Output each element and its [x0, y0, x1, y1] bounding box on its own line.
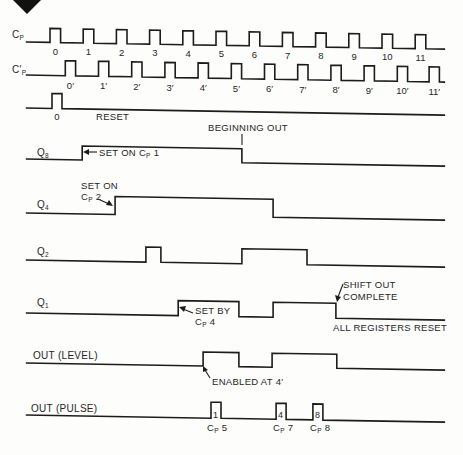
pulse-label-cp: 0: [53, 46, 58, 57]
set-on-cp2-annotation-line1: SET ON: [81, 180, 118, 191]
annotation-text: 4: [207, 316, 216, 327]
pulse-label-cp: 1: [86, 46, 91, 57]
label-main: Q: [37, 246, 45, 257]
pulse-label-cp-prime: 3′: [166, 82, 173, 93]
pulse-label-cp: 11: [416, 52, 426, 63]
out-pulse-number: 8: [315, 410, 320, 421]
label-main: Q: [37, 147, 45, 158]
pulse-label-cp: 2: [119, 47, 124, 58]
pulse-label-cp: 10: [382, 51, 393, 62]
signal-label-cp: CP: [12, 29, 24, 40]
pulse-label-cp-prime: 4′: [200, 82, 207, 93]
shift-out-annotation-line1: SHIFT OUT: [343, 279, 396, 290]
signal-label-q2: Q2: [37, 246, 49, 257]
set-on-cp1-arrowhead: [83, 149, 89, 155]
pulse-label-cp-prime: 0′: [67, 80, 74, 91]
shift-out-arrowhead: [335, 295, 341, 302]
label-sub: 2: [45, 251, 49, 258]
pulse-label-cp-prime: 11′: [428, 86, 440, 97]
label-sub: P: [22, 69, 27, 76]
diamond-icon: [13, 0, 41, 14]
pulse-label-cp-prime: 9′: [366, 85, 373, 96]
label-main: OUT (LEVEL): [33, 350, 98, 361]
pulse-label-cp: 4: [185, 48, 190, 59]
caption-text: 7: [285, 422, 294, 433]
label-sub: 4: [45, 204, 49, 211]
beginning-out-annotation: BEGINNING OUT: [208, 122, 288, 133]
label-main: OUT (PULSE): [31, 403, 97, 414]
out-pulse-caption: CP 5: [207, 422, 227, 433]
set-by-cp4-annotation-line1: SET BY: [195, 305, 230, 316]
pulse-label-cp-prime: 2′: [133, 81, 140, 92]
label-main: Q: [37, 199, 45, 210]
out-pulse-caption: CP 8: [310, 422, 330, 433]
pulse-label-cp: 5: [219, 48, 224, 59]
set-by-cp4-arrowhead: [179, 306, 186, 312]
signal-label-cp-prime: C′P: [12, 64, 26, 75]
out-pulse-number: 4: [278, 410, 283, 421]
pulse-label-cp-prime: 5′: [233, 83, 240, 94]
label-main: C: [12, 29, 20, 40]
shift-out-annotation-line2: COMPLETE: [343, 291, 398, 302]
label-main: Q: [37, 297, 45, 308]
pulse-label-cp: 9: [351, 51, 356, 62]
signal-label-out-pulse: OUT (PULSE): [31, 403, 97, 414]
label-main: C′: [12, 64, 22, 75]
signal-label-q4: Q4: [37, 199, 49, 210]
caption-text: 5: [219, 422, 228, 433]
pulse-label-cp-prime: 7′: [299, 84, 306, 95]
reset-annotation: RESET: [96, 111, 129, 122]
annotation-text: 2: [93, 191, 102, 202]
all-registers-reset-annotation: ALL REGISTERS RESET: [333, 322, 447, 333]
annotation-text: SET ON C: [99, 147, 146, 158]
pulse-label-cp: 8: [318, 50, 323, 61]
out-pulse-caption: CP 7: [273, 422, 293, 433]
caption-text: 8: [322, 422, 331, 433]
pulse-label-reset: 0: [54, 111, 59, 122]
signal-label-q8: Q8: [37, 147, 49, 158]
pulse-label-cp-prime: 10′: [396, 85, 408, 96]
set-by-cp4-annotation-line2: CP 4: [195, 316, 215, 327]
timing-diagram: CP C′P Q8 Q4 Q2 Q1 OUT (LEVEL) OUT (PULS…: [0, 0, 463, 455]
pulse-label-cp-prime: 6′: [266, 83, 273, 94]
enabled-at-annotation: ENABLED AT 4′: [212, 376, 283, 387]
pulse-label-cp-prime: 1′: [100, 80, 107, 91]
label-sub: 8: [45, 152, 49, 159]
waveform-q8: [26, 146, 445, 166]
waveform-q2: [26, 247, 445, 267]
pulse-label-cp: 3: [152, 47, 157, 58]
set-on-cp2-annotation-line2: CP 2: [81, 191, 101, 202]
signal-label-q1: Q1: [37, 297, 49, 308]
signal-label-out-level: OUT (LEVEL): [33, 350, 98, 361]
waveform-cp-prime: [26, 61, 445, 82]
pulse-label-cp: 7: [285, 50, 290, 61]
pulse-label-cp: 6: [252, 49, 257, 60]
waveform-reset: [26, 94, 445, 116]
label-sub: P: [20, 34, 25, 41]
set-on-cp1-annotation: SET ON CP 1: [99, 147, 159, 158]
annotation-text: 1: [151, 147, 160, 158]
enabled-arrow: [205, 370, 210, 378]
pulse-label-cp-prime: 8′: [332, 84, 339, 95]
label-sub: 1: [45, 302, 49, 309]
waveform-q1: [26, 301, 445, 321]
out-pulse-number: 1: [213, 410, 218, 421]
